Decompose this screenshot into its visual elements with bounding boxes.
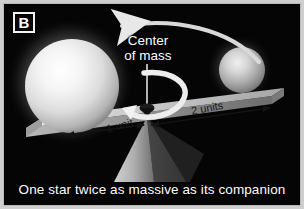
figure-panel-b: B Center of mass 1 unit 2 units One star… bbox=[0, 0, 304, 209]
companion-star-sphere bbox=[219, 47, 265, 93]
center-of-mass-label-line2: of mass bbox=[112, 49, 184, 64]
distance-right-arrowhead-end bbox=[263, 105, 271, 112]
panel-letter-badge: B bbox=[13, 12, 35, 33]
photo-frame: B Center of mass 1 unit 2 units One star… bbox=[3, 3, 301, 206]
center-of-mass-label-line1: Center bbox=[112, 34, 184, 49]
figure-caption: One star twice as massive as its compani… bbox=[4, 182, 300, 198]
fulcrum-cast-shadow bbox=[147, 119, 204, 182]
massive-star-sphere bbox=[25, 39, 119, 133]
center-of-mass-label: Center of mass bbox=[112, 34, 184, 63]
